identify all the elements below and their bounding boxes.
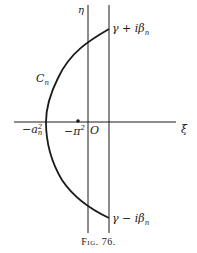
- origin-label: O: [90, 125, 99, 136]
- bottom-point-main: γ − iβ: [112, 212, 145, 225]
- vertex-sub: n: [38, 130, 43, 136]
- top-point-sub: n: [145, 29, 150, 37]
- top-point-label: γ + iβn: [112, 23, 149, 37]
- pole-prefix: −π: [64, 125, 80, 138]
- vertex-prefix: −a: [22, 123, 38, 136]
- curve-label-sub: n: [44, 79, 49, 87]
- figure-caption: Fig. 76.: [0, 236, 197, 247]
- eta-axis-label: η: [78, 5, 84, 15]
- contour-curve: [46, 29, 109, 218]
- xi-axis-label: ξ: [181, 124, 187, 135]
- pole-dot: [76, 119, 80, 123]
- curve-label: Cn: [36, 73, 49, 87]
- bottom-point-sub: n: [145, 219, 150, 227]
- pole-sup: 2: [80, 124, 84, 132]
- top-point-main: γ + iβ: [112, 22, 145, 35]
- pole-label: −π2: [64, 125, 85, 137]
- vertex-label: −a2n: [22, 124, 42, 137]
- contour-diagram: η ξ O Cn γ + iβn γ − iβn −a2n −π2 Fig. 7…: [0, 0, 197, 253]
- bottom-point-label: γ − iβn: [112, 213, 149, 227]
